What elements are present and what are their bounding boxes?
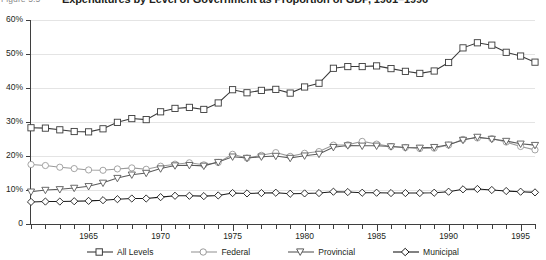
gridline xyxy=(31,122,535,123)
x-axis-minor-tick xyxy=(391,225,392,229)
legend-item-provincial[interactable]: Provincial xyxy=(288,247,355,257)
x-axis-tick-label: 1980 xyxy=(285,231,325,241)
legend-label-federal: Federal xyxy=(221,247,250,257)
x-axis-minor-tick xyxy=(261,225,262,229)
x-axis-minor-tick xyxy=(45,225,46,229)
x-axis-tick-label: 1990 xyxy=(429,231,469,241)
y-axis-tick xyxy=(26,190,31,191)
legend-marker-triangle-down xyxy=(288,247,314,257)
y-axis-tick xyxy=(26,54,31,55)
x-axis-minor-tick xyxy=(348,225,349,229)
x-axis-line xyxy=(31,224,536,225)
chart-legend: All Levels Federal Provincial Municipal xyxy=(0,243,546,260)
x-axis-tick-label: 1965 xyxy=(69,231,109,241)
x-axis-minor-tick xyxy=(333,225,334,229)
x-axis-minor-tick xyxy=(535,225,536,229)
legend-label-all-levels: All Levels xyxy=(117,247,153,257)
x-axis-minor-tick xyxy=(74,225,75,229)
y-axis-tick-label: 20% xyxy=(0,150,23,160)
figure-container: Figure 5.5 Expenditures by Level of Gove… xyxy=(0,0,546,260)
x-axis-minor-tick xyxy=(477,225,478,229)
x-axis-minor-tick xyxy=(132,225,133,229)
x-axis-minor-tick xyxy=(463,225,464,229)
x-axis-minor-tick xyxy=(290,225,291,229)
x-axis-minor-tick xyxy=(60,225,61,229)
x-axis-minor-tick xyxy=(492,225,493,229)
x-axis-minor-tick xyxy=(103,225,104,229)
gridline xyxy=(31,54,535,55)
x-axis-minor-tick xyxy=(362,225,363,229)
legend-item-municipal[interactable]: Municipal xyxy=(393,247,459,257)
x-axis-minor-tick xyxy=(276,225,277,229)
x-axis-minor-tick xyxy=(420,225,421,229)
x-axis-minor-tick xyxy=(31,225,32,229)
legend-label-municipal: Municipal xyxy=(423,247,459,257)
x-axis-tick-label: 1995 xyxy=(501,231,541,241)
x-axis-minor-tick xyxy=(434,225,435,229)
x-axis-minor-tick xyxy=(204,225,205,229)
x-axis-minor-tick xyxy=(117,225,118,229)
x-axis-minor-tick xyxy=(319,225,320,229)
y-axis-tick-label: 40% xyxy=(0,82,23,92)
y-axis-tick xyxy=(26,156,31,157)
figure-number: Figure 5.5 xyxy=(1,0,40,4)
x-axis-minor-tick xyxy=(175,225,176,229)
y-axis-tick-label: 60% xyxy=(0,14,23,24)
y-axis-tick-label: 50% xyxy=(0,48,23,58)
x-axis-tick-label: 1970 xyxy=(141,231,181,241)
y-axis-tick-label: 30% xyxy=(0,116,23,126)
x-axis-minor-tick xyxy=(247,225,248,229)
legend-marker-diamond xyxy=(393,247,419,257)
x-axis-minor-tick xyxy=(146,225,147,229)
gridline xyxy=(31,20,535,21)
gridline xyxy=(31,88,535,89)
x-axis-minor-tick xyxy=(218,225,219,229)
x-axis-minor-tick xyxy=(405,225,406,229)
y-axis-tick xyxy=(26,20,31,21)
legend-item-all-levels[interactable]: All Levels xyxy=(87,247,153,257)
x-axis-tick-label: 1975 xyxy=(213,231,253,241)
x-axis-minor-tick xyxy=(189,225,190,229)
y-axis-tick-label: 10% xyxy=(0,184,23,194)
x-axis-minor-tick xyxy=(506,225,507,229)
y-axis-tick-label: 0 xyxy=(0,218,23,228)
legend-label-provincial: Provincial xyxy=(318,247,355,257)
gridline xyxy=(31,190,535,191)
legend-item-federal[interactable]: Federal xyxy=(191,247,250,257)
y-axis-tick xyxy=(26,122,31,123)
legend-marker-circle xyxy=(191,247,217,257)
figure-title: Expenditures by Level of Government as P… xyxy=(62,0,428,5)
x-axis-tick-label: 1985 xyxy=(357,231,397,241)
y-axis-tick xyxy=(26,88,31,89)
figure-title-row: Figure 5.5 Expenditures by Level of Gove… xyxy=(0,0,546,8)
gridline xyxy=(31,156,535,157)
legend-marker-square xyxy=(87,247,113,257)
